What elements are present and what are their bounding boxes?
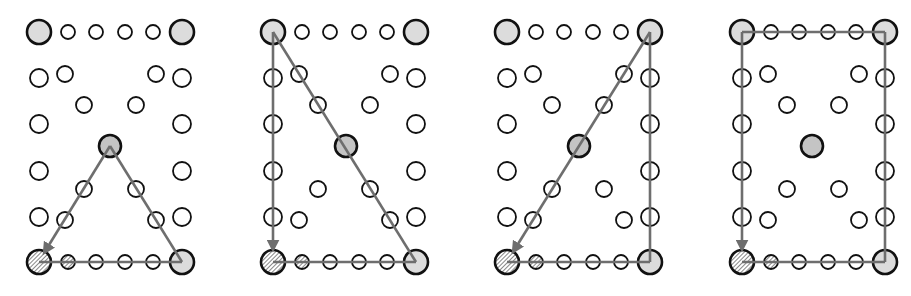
side-node (407, 162, 425, 180)
top-node (557, 25, 571, 39)
side-node (30, 162, 48, 180)
side-node (498, 115, 516, 133)
side-node (173, 208, 191, 226)
side-node (173, 162, 191, 180)
inner-node (525, 66, 541, 82)
side-node (173, 115, 191, 133)
top-node (529, 25, 543, 39)
top-node (146, 25, 160, 39)
top-node (614, 25, 628, 39)
inner-node (544, 97, 560, 113)
top-node (61, 25, 75, 39)
side-node (498, 69, 516, 87)
top-node (295, 25, 309, 39)
inner-node (148, 66, 164, 82)
inner-node (57, 66, 73, 82)
inner-node (779, 97, 795, 113)
path-line (110, 146, 182, 262)
top-node (380, 25, 394, 39)
inner-node (382, 66, 398, 82)
inner-node (362, 97, 378, 113)
inner-node (851, 66, 867, 82)
top-node (89, 25, 103, 39)
corner-node-top-right (404, 20, 428, 44)
side-node (30, 115, 48, 133)
panels-layer (27, 20, 897, 274)
panel-diagonal-left (495, 20, 662, 274)
inner-node (596, 181, 612, 197)
corner-node-top-left (495, 20, 519, 44)
panel-triangle-up (27, 20, 194, 274)
inner-node (760, 66, 776, 82)
side-node (30, 208, 48, 226)
side-node (498, 162, 516, 180)
inner-node (310, 181, 326, 197)
corner-node-top-left (27, 20, 51, 44)
inner-node (128, 97, 144, 113)
inner-node (616, 212, 632, 228)
panel-rectangle (730, 20, 897, 274)
inner-node (779, 181, 795, 197)
side-node (407, 115, 425, 133)
inner-node (76, 97, 92, 113)
arrow-path (44, 146, 110, 253)
side-node (498, 208, 516, 226)
top-node (118, 25, 132, 39)
top-node (352, 25, 366, 39)
inner-node (831, 181, 847, 197)
corner-node-top-right (170, 20, 194, 44)
pattern-diagram (0, 0, 911, 296)
inner-node (851, 212, 867, 228)
side-node (407, 69, 425, 87)
top-node (586, 25, 600, 39)
side-node (407, 208, 425, 226)
panel-diagonal-right (261, 20, 428, 274)
inner-node (291, 212, 307, 228)
top-node (323, 25, 337, 39)
inner-node (760, 212, 776, 228)
side-node (173, 69, 191, 87)
side-node (30, 69, 48, 87)
center-node (801, 135, 823, 157)
inner-node (831, 97, 847, 113)
diagram-stage (0, 0, 911, 296)
